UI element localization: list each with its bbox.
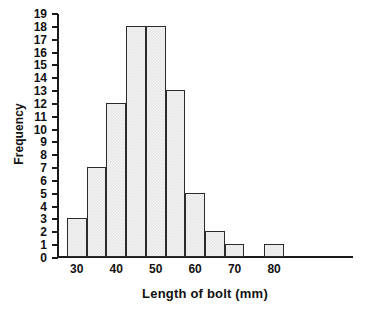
histogram-bar	[146, 26, 166, 257]
histogram-bar	[166, 90, 186, 257]
y-tick-label: 8	[40, 149, 47, 161]
y-tick-label: 3	[40, 213, 47, 225]
y-tick-label: 5	[40, 188, 47, 200]
y-tick-label: 18	[34, 21, 47, 33]
y-tick-label: 15	[34, 59, 47, 71]
y-tick: 4	[52, 206, 58, 208]
y-tick: 6	[52, 180, 58, 182]
y-tick-label: 11	[34, 111, 47, 123]
y-tick-label: 13	[34, 85, 47, 97]
y-tick: 11	[52, 116, 58, 118]
x-tick-label: 50	[149, 263, 162, 275]
y-tick: 16	[52, 52, 58, 54]
x-tick-label: 40	[110, 263, 123, 275]
plot-area: 012345678910111213141516171819 304050607…	[57, 14, 353, 258]
histogram-bar	[67, 218, 87, 257]
y-tick: 0	[52, 257, 58, 259]
y-tick-label: 7	[40, 162, 47, 174]
y-tick: 1	[52, 244, 58, 246]
x-axis-title: Length of bolt (mm)	[57, 286, 353, 301]
y-tick-label: 10	[34, 124, 47, 136]
histogram-bar	[126, 26, 146, 257]
y-tick-label: 2	[40, 226, 47, 238]
x-tick-label: 70	[228, 263, 241, 275]
y-tick: 17	[52, 39, 58, 41]
y-axis-title: Frequency	[6, 0, 32, 268]
y-tick: 12	[52, 103, 58, 105]
y-tick-label: 14	[34, 72, 47, 84]
x-tick-label: 60	[188, 263, 201, 275]
y-tick-label: 19	[34, 8, 47, 20]
x-tick-label: 80	[267, 263, 280, 275]
y-tick-label: 16	[34, 47, 47, 59]
x-tick-label: 30	[70, 263, 83, 275]
histogram-bar	[185, 193, 205, 257]
y-tick-label: 4	[40, 201, 47, 213]
y-tick-label: 0	[40, 252, 47, 264]
y-tick: 18	[52, 26, 58, 28]
y-tick: 13	[52, 90, 58, 92]
histogram-bar	[106, 103, 126, 257]
y-tick: 14	[52, 77, 58, 79]
y-tick: 9	[52, 141, 58, 143]
y-tick: 3	[52, 218, 58, 220]
y-tick: 7	[52, 167, 58, 169]
y-tick-label: 9	[40, 136, 47, 148]
y-tick-label: 12	[34, 98, 47, 110]
histogram-bar	[264, 244, 284, 257]
histogram-bar	[205, 231, 225, 257]
histogram-bar	[87, 167, 107, 257]
histogram-bar	[225, 244, 245, 257]
y-tick: 2	[52, 231, 58, 233]
y-tick: 19	[52, 13, 58, 15]
y-tick-label: 17	[34, 34, 47, 46]
y-tick-label: 1	[40, 239, 47, 251]
y-axis-title-text: Frequency	[12, 103, 26, 165]
y-tick-label: 6	[40, 175, 47, 187]
histogram-chart: Frequency 012345678910111213141516171819…	[0, 0, 366, 314]
y-tick: 5	[52, 193, 58, 195]
y-tick: 8	[52, 154, 58, 156]
y-tick: 15	[52, 64, 58, 66]
y-tick: 10	[52, 129, 58, 131]
